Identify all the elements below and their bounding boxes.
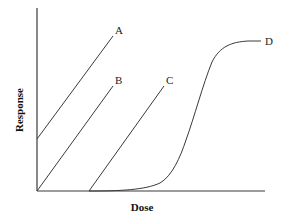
curve-c-label: C xyxy=(166,74,173,86)
curve-a-label: A xyxy=(115,24,123,36)
curve-c xyxy=(89,86,164,191)
x-axis-label: Dose xyxy=(131,201,154,213)
curve-d-label: D xyxy=(265,35,273,47)
curve-a xyxy=(37,36,113,139)
curve-d xyxy=(89,41,261,191)
y-axis-label: Response xyxy=(13,88,25,132)
curve-b-label: B xyxy=(115,74,122,86)
curve-b xyxy=(37,86,113,191)
dose-response-chart: A B C D Dose Response xyxy=(0,0,291,220)
